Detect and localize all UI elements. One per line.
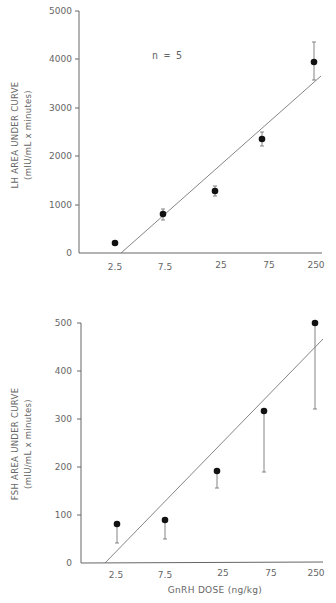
fsh-fit-line: [105, 339, 323, 563]
svg-text:(mIU/mL x minutes): (mIU/mL x minutes): [23, 90, 33, 180]
lh-y-ticks: 5000 4000 3000 2000 1000 0: [49, 6, 79, 258]
svg-text:2.5: 2.5: [109, 570, 123, 580]
n-annotation: n = 5: [152, 50, 182, 61]
figure: 5000 4000 3000 2000 1000 0 2.5 7.5 25 75…: [0, 0, 336, 603]
lh-data-points: [112, 59, 318, 247]
svg-text:FSH AREA UNDER CURVE: FSH AREA UNDER CURVE: [10, 388, 20, 501]
lh-point-2.5: [112, 240, 119, 247]
fsh-chart: 500 400 300 200 100 0 2.5 7.5 25 75 250 …: [10, 318, 325, 595]
fsh-y-ticks: 500 400 300 200 100 0: [55, 318, 81, 568]
fsh-y-label: FSH AREA UNDER CURVE (mIU/mL x minutes): [10, 388, 33, 501]
lh-point-75: [259, 136, 266, 143]
svg-text:500: 500: [55, 318, 72, 328]
svg-text:200: 200: [55, 462, 72, 472]
svg-text:100: 100: [55, 510, 72, 520]
lh-y-label: LH AREA UNDER CURVE (mIU/mL x minutes): [10, 81, 33, 188]
svg-text:5000: 5000: [49, 6, 72, 16]
svg-text:25: 25: [215, 260, 226, 270]
svg-text:3000: 3000: [49, 103, 72, 113]
lh-error-bars: [161, 42, 316, 220]
svg-text:7.5: 7.5: [158, 570, 172, 580]
svg-text:250: 250: [307, 260, 324, 270]
lh-point-25: [212, 188, 219, 195]
fsh-point-75: [261, 408, 268, 415]
fsh-error-bars: [115, 323, 317, 543]
svg-text:0: 0: [66, 558, 72, 568]
fsh-point-2.5: [114, 521, 121, 528]
svg-text:1000: 1000: [49, 200, 72, 210]
fsh-point-7.5: [162, 517, 169, 524]
fsh-x-axis: [81, 562, 323, 563]
fsh-x-ticks: 2.5 7.5 25 75 250: [109, 568, 325, 580]
lh-chart: 5000 4000 3000 2000 1000 0 2.5 7.5 25 75…: [10, 6, 325, 272]
fsh-point-250: [312, 320, 319, 327]
svg-text:300: 300: [55, 414, 72, 424]
lh-fit-line: [121, 76, 321, 253]
svg-text:25: 25: [217, 568, 228, 578]
svg-text:2.5: 2.5: [108, 262, 122, 272]
svg-text:4000: 4000: [49, 54, 72, 64]
svg-text:2000: 2000: [49, 151, 72, 161]
svg-text:400: 400: [55, 366, 72, 376]
svg-text:0: 0: [66, 248, 72, 258]
svg-text:75: 75: [265, 568, 276, 578]
fsh-x-label: GnRH DOSE (ng/kg): [168, 585, 262, 595]
lh-point-250: [311, 59, 318, 66]
fsh-point-25: [214, 468, 221, 475]
svg-text:250: 250: [307, 568, 324, 578]
lh-point-7.5: [160, 211, 167, 218]
svg-text:7.5: 7.5: [158, 262, 172, 272]
lh-x-ticks: 2.5 7.5 25 75 250: [108, 260, 325, 272]
svg-text:(mIU/mL x minutes): (mIU/mL x minutes): [23, 399, 33, 489]
svg-text:75: 75: [263, 260, 274, 270]
fsh-data-points: [114, 320, 319, 528]
svg-text:LH AREA UNDER CURVE: LH AREA UNDER CURVE: [10, 81, 20, 188]
